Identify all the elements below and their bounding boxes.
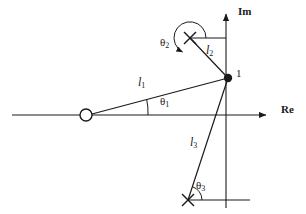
zero-open-circle-icon (80, 109, 92, 121)
vector-l2-subscript: 2 (209, 49, 213, 58)
angle-theta2-label: θ2 (160, 37, 169, 48)
evaluation-point-dot-icon (224, 74, 232, 82)
vector-l3-label: l3 (190, 136, 197, 148)
angle-theta3-subscript: 3 (201, 184, 205, 193)
diagram-canvas (0, 0, 306, 214)
evaluation-point-label: 1 (236, 68, 242, 79)
real-axis-label: Re (281, 104, 294, 115)
angle-theta1-label: θ1 (160, 96, 169, 107)
imaginary-axis-label: Im (238, 6, 251, 17)
theta2-arc (174, 22, 206, 52)
angle-theta3-label: θ3 (196, 180, 205, 191)
pole-zero-diagram: Im Re 1 l1 l2 l3 θ1 θ2 θ3 (0, 0, 306, 214)
vector-l2-label: l2 (206, 44, 213, 56)
angle-theta1-subscript: 1 (165, 100, 169, 109)
vector-l1-label: l1 (138, 76, 145, 88)
vector-l3-subscript: 3 (193, 141, 197, 150)
theta1-arc (147, 99, 148, 115)
vector-l1-subscript: 1 (141, 81, 145, 90)
angle-theta2-subscript: 2 (165, 41, 169, 50)
